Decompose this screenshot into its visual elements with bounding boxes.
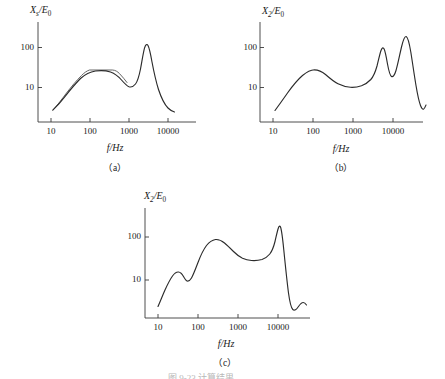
panel-a-curve-main: [53, 44, 175, 112]
panel-c-ytick-label-100: 100: [118, 231, 141, 241]
panel-c-xtick-label-100: 100: [184, 322, 212, 332]
panel-a-ytick-label-10: 10: [12, 82, 34, 92]
panel-b-ytick-label-10: 10: [235, 82, 257, 92]
panel-b-xtick-label-1000: 1000: [338, 126, 368, 136]
panel-c-xtick-label-10000: 10000: [262, 322, 294, 332]
panel-b: .X2/E0 100 10 10 100 1000 10000 f/Hz （b）: [233, 0, 445, 180]
panel-c: .X2/E0 100 10 10 100 1000 10000 f/Hz （c）: [100, 185, 350, 370]
panel-b-curve-main: [275, 36, 426, 110]
figure-bottom-caption: 图 9-23 计算结果: [168, 371, 283, 379]
panel-a-x-axis-label: f/Hz: [85, 142, 145, 153]
panel-c-caption: （c）: [205, 355, 245, 369]
panel-a: .Xs/E0 100 10 10 100 1000 10000 f/Hz （a）: [0, 0, 230, 180]
figure-container: .Xs/E0 100 10 10 100 1000 10000 f/Hz （a）: [0, 0, 445, 379]
panel-a-plot-area: [0, 0, 230, 180]
panel-b-ytick-label-100: 100: [235, 42, 257, 52]
panel-a-xtick-label-10000: 10000: [152, 126, 184, 136]
panel-c-curve-main: [158, 226, 307, 310]
panel-a-xtick-label-100: 100: [76, 126, 104, 136]
panel-a-curve-clipped: [53, 70, 127, 110]
panel-c-xtick-label-10: 10: [144, 322, 172, 332]
panel-b-xtick-label-10000: 10000: [377, 126, 409, 136]
panel-b-caption: （b）: [321, 160, 361, 174]
panel-a-caption: （a）: [95, 160, 135, 174]
panel-a-xtick-label-10: 10: [37, 126, 65, 136]
panel-b-x-axis-label: f/Hz: [311, 143, 371, 154]
panel-c-ytick-label-10: 10: [118, 274, 141, 284]
panel-a-ytick-label-100: 100: [12, 42, 34, 52]
panel-c-xtick-label-1000: 1000: [223, 322, 253, 332]
panel-b-xtick-label-10: 10: [259, 126, 287, 136]
panel-c-x-axis-label: f/Hz: [196, 338, 256, 349]
panel-a-xtick-label-1000: 1000: [114, 126, 144, 136]
panel-b-xtick-label-100: 100: [299, 126, 327, 136]
